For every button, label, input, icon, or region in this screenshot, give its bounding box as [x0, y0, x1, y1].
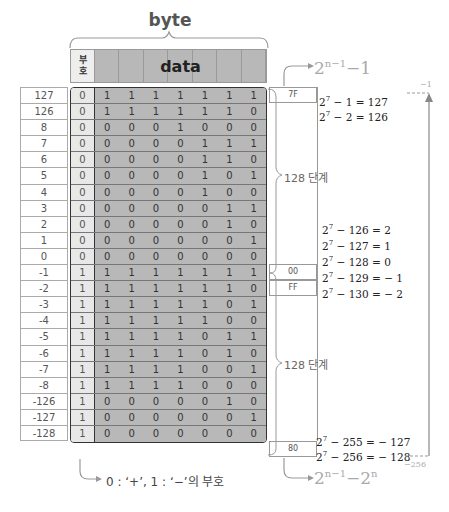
data-bits: 1111100: [95, 313, 266, 328]
data-bit-cell: 1: [144, 88, 168, 103]
equation-126: 27 − 2 = 126: [319, 110, 388, 123]
data-bit-cell: 0: [144, 233, 168, 248]
bit-grid: 0111111101111110000010000000011100000110…: [70, 87, 267, 443]
data-bit-cell: 1: [168, 104, 192, 119]
data-bit-cell: 0: [144, 185, 168, 200]
data-bit-cell: 1: [119, 346, 143, 361]
equation-minus-128: 27 − 256 = − 128: [316, 450, 410, 463]
data-bit-cell: 1: [217, 136, 241, 151]
data-bits: 1111101: [95, 297, 266, 312]
data-bit-cell: 0: [217, 410, 241, 425]
data-bit-cell: 0: [95, 152, 119, 167]
data-bit-cell: 0: [217, 362, 241, 377]
data-bits: 1111111: [95, 88, 266, 103]
data-bit-cell: 1: [168, 378, 192, 393]
data-bit-cell: 0: [119, 410, 143, 425]
data-bit-cell: 1: [95, 88, 119, 103]
bit-row: 11111101: [71, 297, 266, 313]
sign-bit-cell: 0: [71, 249, 95, 264]
data-bit-cell: 1: [119, 281, 143, 296]
bit-row: 00000110: [71, 152, 266, 168]
data-bit-cell: 1: [95, 297, 119, 312]
data-bit-cell: 1: [242, 297, 266, 312]
data-bit-cell: 0: [193, 378, 217, 393]
data-bit-cell: 0: [217, 297, 241, 312]
data-bit-cell: 0: [217, 378, 241, 393]
data-bit-cell: 1: [242, 136, 266, 151]
data-bit-cell: 1: [242, 265, 266, 280]
data-bit-cell: 1: [242, 201, 266, 216]
data-bit-cell: 1: [217, 394, 241, 409]
data-label: data: [95, 50, 266, 82]
data-bit-cell: 0: [242, 249, 266, 264]
data-bit-cell: 0: [144, 120, 168, 135]
data-bit-cell: 1: [144, 281, 168, 296]
data-bits: 1111001: [95, 362, 266, 377]
bit-row: 10000000: [71, 426, 266, 442]
data-bit-cell: 0: [168, 152, 192, 167]
data-bit-cell: 1: [193, 88, 217, 103]
data-bit-cell: 0: [217, 185, 241, 200]
data-bit-cell: 0: [168, 410, 192, 425]
sign-bit-header: 부 호: [71, 50, 95, 82]
data-bit-cell: 0: [119, 201, 143, 216]
decimal-value-cell: 6: [20, 151, 68, 167]
data-bit-cell: 0: [119, 120, 143, 135]
data-bit-cell: 1: [95, 378, 119, 393]
data-bit-cell: 0: [144, 426, 168, 442]
data-bit-cell: 1: [144, 329, 168, 344]
data-bit-cell: 0: [193, 410, 217, 425]
data-bit-cell: 0: [242, 346, 266, 361]
data-bit-cell: 1: [193, 152, 217, 167]
data-bit-cell: 0: [242, 104, 266, 119]
bit-row: 00000011: [71, 201, 266, 217]
data-bit-cell: 0: [193, 249, 217, 264]
data-bits: 0000001: [95, 233, 266, 248]
data-bit-cell: 0: [144, 410, 168, 425]
data-bit-cell: 1: [119, 362, 143, 377]
data-bit-cell: 0: [119, 152, 143, 167]
data-bit-cell: 0: [119, 394, 143, 409]
data-bit-cell: 0: [95, 120, 119, 135]
data-bit-cell: 1: [217, 346, 241, 361]
bit-row: 11111010: [71, 346, 266, 362]
data-bits: 0000111: [95, 136, 266, 151]
bit-row: 01111111: [71, 88, 266, 104]
bit-row: 11111011: [71, 329, 266, 345]
data-bit-cell: 1: [144, 104, 168, 119]
bit-row: 00000100: [71, 185, 266, 201]
decimal-value-cell: 4: [20, 184, 68, 200]
data-bit-cell: 1: [168, 281, 192, 296]
data-bit-cell: 0: [168, 394, 192, 409]
sign-bit-cell: 1: [71, 297, 95, 312]
decimal-value-cell: 0: [20, 248, 68, 264]
data-bit-cell: 0: [95, 168, 119, 183]
data-bit-cell: 0: [193, 120, 217, 135]
decimal-value-cell: -5: [20, 328, 68, 344]
data-bit-cell: 1: [193, 185, 217, 200]
data-bit-cell: 0: [193, 217, 217, 232]
data-bits: 0000110: [95, 152, 266, 167]
data-bit-cell: 0: [168, 233, 192, 248]
data-bit-cell: 0: [119, 233, 143, 248]
data-bits: 0000000: [95, 249, 266, 264]
data-bit-cell: 0: [242, 394, 266, 409]
data-bits: 0000000: [95, 426, 266, 442]
data-bit-cell: 0: [168, 426, 192, 442]
equation-minus-127: 27 − 255 = − 127: [316, 435, 410, 448]
data-bits: 0000010: [95, 217, 266, 232]
data-bits: 0000011: [95, 201, 266, 216]
bit-row: 01111110: [71, 104, 266, 120]
data-bit-cell: 0: [119, 426, 143, 442]
max-formula: 2n−1−1: [314, 58, 371, 78]
range-bottom-label: −256: [404, 460, 426, 469]
data-bit-cell: 0: [168, 249, 192, 264]
decimal-value-cell: 5: [20, 167, 68, 183]
decimal-value-cell: -127: [20, 409, 68, 425]
bit-row: 11111111: [71, 265, 266, 281]
step-braces: [266, 87, 286, 457]
data-bit-cell: 0: [168, 201, 192, 216]
sign-note-arrow: [76, 457, 106, 487]
equation-minus-1: 27 − 129 = − 1: [322, 271, 403, 284]
sign-bit-cell: 0: [71, 201, 95, 216]
